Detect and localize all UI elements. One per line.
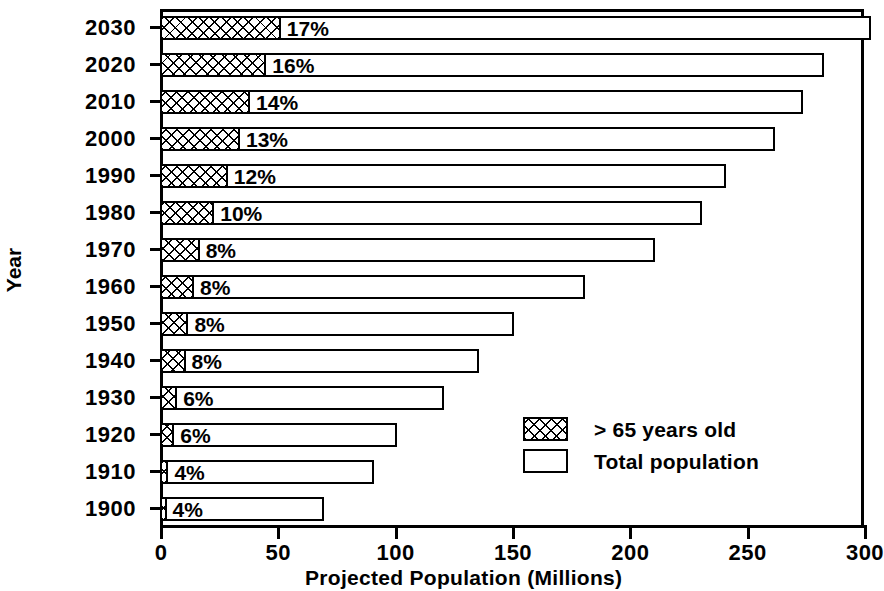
x-axis-tick-label: 0 bbox=[116, 540, 206, 566]
year-label: 2020 bbox=[20, 46, 136, 83]
bar-percent-label: 12% bbox=[228, 164, 276, 188]
year-label: 1900 bbox=[20, 490, 136, 527]
legend-swatch-total-population bbox=[523, 449, 568, 473]
x-axis-tick-label: 300 bbox=[820, 540, 884, 566]
bar-percent-label: 6% bbox=[174, 423, 210, 447]
bar-percent-label: 8% bbox=[194, 275, 230, 299]
legend-swatch-over-65 bbox=[523, 417, 568, 441]
year-label: 2000 bbox=[20, 120, 136, 157]
bar-percent-label: 13% bbox=[240, 127, 288, 151]
bar-over-65 bbox=[160, 238, 200, 262]
year-label: 1970 bbox=[20, 231, 136, 268]
bar-row: 200013% bbox=[0, 120, 884, 157]
year-label: 2030 bbox=[20, 9, 136, 46]
x-axis-tick bbox=[747, 528, 750, 539]
x-axis-tick-label: 200 bbox=[585, 540, 675, 566]
bar-percent-label: 4% bbox=[168, 460, 204, 484]
x-axis-tick-label: 50 bbox=[233, 540, 323, 566]
x-axis-title: Projected Population (Millions) bbox=[305, 566, 622, 590]
projected-population-chart: Year 203017%202016%201014%200013%199012%… bbox=[0, 0, 884, 591]
bar-row: 203017% bbox=[0, 9, 884, 46]
year-label: 1960 bbox=[20, 268, 136, 305]
bar-over-65 bbox=[160, 349, 186, 373]
bar-over-65 bbox=[160, 423, 174, 447]
bar-percent-label: 8% bbox=[200, 238, 236, 262]
bar-percent-label: 10% bbox=[214, 201, 262, 225]
bar-row: 19408% bbox=[0, 342, 884, 379]
bar-percent-label: 17% bbox=[281, 16, 329, 40]
bar-percent-label: 16% bbox=[266, 53, 314, 77]
bar-over-65 bbox=[160, 90, 250, 114]
bar-row: 198010% bbox=[0, 194, 884, 231]
x-axis-tick bbox=[864, 528, 867, 539]
year-label: 1990 bbox=[20, 157, 136, 194]
x-axis-tick-label: 100 bbox=[351, 540, 441, 566]
bar-row: 201014% bbox=[0, 83, 884, 120]
bar-over-65 bbox=[160, 53, 266, 77]
bar-over-65 bbox=[160, 275, 194, 299]
bar-row: 19508% bbox=[0, 305, 884, 342]
x-axis-tick bbox=[277, 528, 280, 539]
bar-row: 19004% bbox=[0, 490, 884, 527]
bar-row: 202016% bbox=[0, 46, 884, 83]
bar-row: 199012% bbox=[0, 157, 884, 194]
bar-over-65 bbox=[160, 312, 188, 336]
year-label: 2010 bbox=[20, 83, 136, 120]
bar-percent-label: 4% bbox=[167, 497, 203, 521]
bar-percent-label: 8% bbox=[186, 349, 222, 373]
x-axis-tick bbox=[512, 528, 515, 539]
x-axis-tick bbox=[629, 528, 632, 539]
bar-over-65 bbox=[160, 386, 177, 410]
bar-percent-label: 8% bbox=[188, 312, 224, 336]
bar-over-65 bbox=[160, 201, 214, 225]
year-label: 1920 bbox=[20, 416, 136, 453]
year-label: 1930 bbox=[20, 379, 136, 416]
bar-row: 19608% bbox=[0, 268, 884, 305]
x-axis-tick bbox=[160, 528, 163, 539]
bar-percent-label: 14% bbox=[250, 90, 298, 114]
bar-row: 19708% bbox=[0, 231, 884, 268]
x-axis-tick-label: 150 bbox=[468, 540, 558, 566]
bar-over-65 bbox=[160, 127, 240, 151]
x-axis-tick bbox=[395, 528, 398, 539]
bar-row: 19306% bbox=[0, 379, 884, 416]
legend-label: Total population bbox=[594, 446, 759, 477]
year-label: 1950 bbox=[20, 305, 136, 342]
x-axis-tick-label: 250 bbox=[703, 540, 793, 566]
legend-label: > 65 years old bbox=[594, 414, 736, 445]
bar-over-65 bbox=[160, 460, 168, 484]
year-label: 1980 bbox=[20, 194, 136, 231]
year-label: 1910 bbox=[20, 453, 136, 490]
bar-percent-label: 6% bbox=[177, 386, 213, 410]
bar-over-65 bbox=[160, 16, 281, 40]
bar-over-65 bbox=[160, 164, 228, 188]
year-label: 1940 bbox=[20, 342, 136, 379]
